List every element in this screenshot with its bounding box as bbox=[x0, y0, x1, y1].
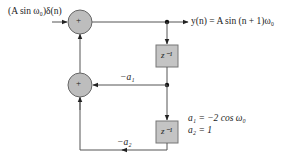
bottom-adder-plus: + bbox=[76, 78, 81, 88]
delay-label-1: z⁻¹ bbox=[161, 50, 172, 60]
coeff-a1-label: a₁ = −2 cos ω₀ bbox=[188, 113, 246, 123]
input-label: (A sin ω₀)δ(n) bbox=[8, 6, 62, 16]
gain-a2-label: −a₂ bbox=[117, 137, 131, 147]
top-adder-plus: + bbox=[76, 15, 81, 25]
gain-a1-label: −a₁ bbox=[120, 72, 134, 82]
coeff-a2-label: a₂ = 1 bbox=[188, 125, 212, 135]
delay-label-2: z⁻¹ bbox=[161, 126, 172, 136]
output-label: y(n) = A sin (n + 1)ω₀ bbox=[191, 16, 274, 26]
